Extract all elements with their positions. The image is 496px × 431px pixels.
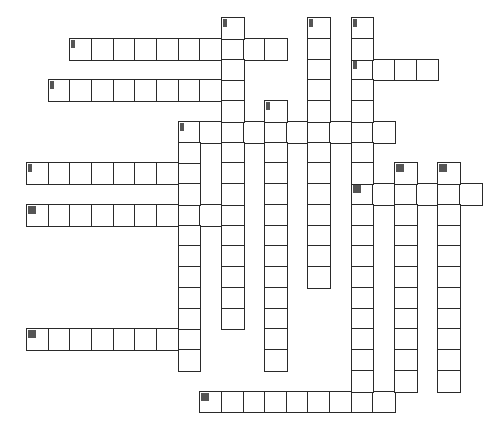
- crossword-cell[interactable]: [351, 328, 374, 351]
- crossword-cell[interactable]: [113, 162, 136, 185]
- crossword-cell[interactable]: [351, 308, 374, 330]
- crossword-cell[interactable]: [394, 204, 418, 227]
- crossword-cell[interactable]: [416, 183, 439, 206]
- crossword-cell[interactable]: [307, 17, 331, 40]
- crossword-cell[interactable]: [221, 38, 245, 61]
- crossword-cell[interactable]: [437, 370, 461, 393]
- crossword-cell[interactable]: [221, 245, 245, 268]
- crossword-cell[interactable]: [156, 38, 180, 61]
- crossword-cell[interactable]: [437, 204, 461, 227]
- crossword-cell[interactable]: [178, 204, 201, 227]
- crossword-cell[interactable]: [199, 121, 223, 144]
- crossword-cell[interactable]: [394, 287, 418, 310]
- crossword-cell[interactable]: [221, 142, 245, 164]
- crossword-cell[interactable]: [307, 204, 331, 227]
- crossword-cell[interactable]: [134, 79, 158, 102]
- crossword-cell[interactable]: [264, 121, 288, 144]
- crossword-cell[interactable]: [243, 121, 266, 144]
- crossword-cell[interactable]: [307, 245, 331, 268]
- crossword-cell[interactable]: [178, 79, 201, 102]
- crossword-cell[interactable]: [394, 266, 418, 289]
- crossword-cell[interactable]: [351, 142, 374, 164]
- crossword-cell[interactable]: [48, 328, 71, 351]
- crossword-cell[interactable]: [264, 245, 288, 268]
- crossword-cell[interactable]: [178, 308, 201, 330]
- crossword-cell[interactable]: [437, 245, 461, 268]
- crossword-cell[interactable]: [264, 308, 288, 330]
- crossword-cell[interactable]: [199, 204, 223, 227]
- crossword-cell[interactable]: [351, 287, 374, 310]
- crossword-cell[interactable]: [351, 266, 374, 289]
- crossword-cell[interactable]: [91, 204, 115, 227]
- crossword-cell[interactable]: [264, 266, 288, 289]
- crossword-cell[interactable]: [178, 142, 201, 164]
- crossword-cell[interactable]: [372, 183, 396, 206]
- crossword-cell[interactable]: [307, 266, 331, 289]
- crossword-cell[interactable]: [221, 308, 245, 330]
- crossword-cell[interactable]: [156, 79, 180, 102]
- crossword-cell[interactable]: [264, 328, 288, 351]
- crossword-cell[interactable]: [307, 100, 331, 123]
- crossword-cell[interactable]: [221, 17, 245, 40]
- crossword-cell[interactable]: [437, 225, 461, 247]
- crossword-cell[interactable]: [372, 121, 396, 144]
- crossword-cell[interactable]: [264, 100, 288, 123]
- crossword-cell[interactable]: [351, 183, 374, 206]
- crossword-cell[interactable]: [459, 183, 483, 206]
- crossword-cell[interactable]: [156, 162, 180, 185]
- crossword-cell[interactable]: [394, 225, 418, 247]
- crossword-cell[interactable]: [307, 59, 331, 81]
- crossword-cell[interactable]: [48, 162, 71, 185]
- crossword-cell[interactable]: [221, 266, 245, 289]
- crossword-cell[interactable]: [221, 121, 245, 144]
- crossword-cell[interactable]: [264, 349, 288, 372]
- crossword-cell[interactable]: [26, 204, 50, 227]
- crossword-cell[interactable]: [437, 328, 461, 351]
- crossword-cell[interactable]: [351, 79, 374, 102]
- crossword-cell[interactable]: [243, 391, 266, 413]
- crossword-cell[interactable]: [264, 391, 288, 413]
- crossword-cell[interactable]: [221, 100, 245, 123]
- crossword-cell[interactable]: [264, 204, 288, 227]
- crossword-cell[interactable]: [69, 204, 93, 227]
- crossword-cell[interactable]: [178, 38, 201, 61]
- crossword-cell[interactable]: [264, 287, 288, 310]
- crossword-cell[interactable]: [351, 162, 374, 185]
- crossword-cell[interactable]: [264, 225, 288, 247]
- crossword-cell[interactable]: [264, 142, 288, 164]
- crossword-cell[interactable]: [394, 245, 418, 268]
- crossword-cell[interactable]: [351, 349, 374, 372]
- crossword-cell[interactable]: [178, 287, 201, 310]
- crossword-cell[interactable]: [178, 225, 201, 247]
- crossword-cell[interactable]: [329, 391, 353, 413]
- crossword-cell[interactable]: [221, 391, 245, 413]
- crossword-cell[interactable]: [91, 162, 115, 185]
- crossword-cell[interactable]: [351, 225, 374, 247]
- crossword-cell[interactable]: [286, 121, 309, 144]
- crossword-cell[interactable]: [307, 391, 331, 413]
- crossword-cell[interactable]: [264, 183, 288, 206]
- crossword-cell[interactable]: [69, 328, 93, 351]
- crossword-cell[interactable]: [178, 121, 201, 144]
- crossword-cell[interactable]: [178, 328, 201, 351]
- crossword-cell[interactable]: [199, 391, 223, 413]
- crossword-cell[interactable]: [48, 204, 71, 227]
- crossword-cell[interactable]: [134, 328, 158, 351]
- crossword-cell[interactable]: [307, 142, 331, 164]
- crossword-cell[interactable]: [178, 266, 201, 289]
- crossword-cell[interactable]: [437, 266, 461, 289]
- crossword-cell[interactable]: [134, 38, 158, 61]
- crossword-cell[interactable]: [394, 162, 418, 185]
- crossword-cell[interactable]: [351, 204, 374, 227]
- crossword-cell[interactable]: [69, 38, 93, 61]
- crossword-cell[interactable]: [394, 183, 418, 206]
- crossword-cell[interactable]: [91, 79, 115, 102]
- crossword-cell[interactable]: [199, 79, 223, 102]
- crossword-cell[interactable]: [113, 79, 136, 102]
- crossword-cell[interactable]: [307, 183, 331, 206]
- crossword-cell[interactable]: [437, 183, 461, 206]
- crossword-cell[interactable]: [437, 349, 461, 372]
- crossword-cell[interactable]: [178, 183, 201, 206]
- crossword-cell[interactable]: [416, 59, 439, 81]
- crossword-cell[interactable]: [91, 328, 115, 351]
